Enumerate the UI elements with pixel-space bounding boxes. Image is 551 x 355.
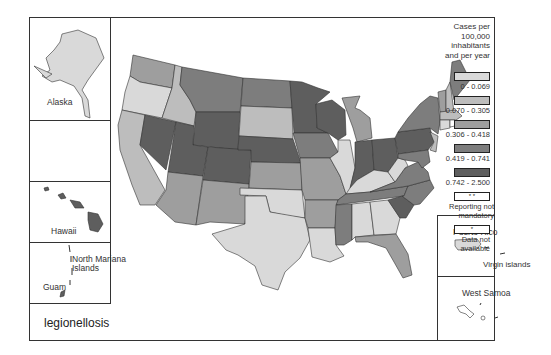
legend-item: 0.070 - 0.305 [432, 96, 490, 115]
legend-swatch [454, 120, 490, 129]
legend-item: 0.742 - 2.500 [432, 168, 490, 187]
legend-label: 0.070 - 0.305 [432, 106, 490, 115]
legend-swatch [454, 96, 490, 105]
state-arkansas [305, 200, 338, 228]
hawaii-label: Hawaii [51, 226, 77, 236]
state-arizona [156, 172, 203, 225]
state-new-mexico [196, 180, 249, 225]
island-west-samoa [457, 305, 474, 318]
legend-swatch [454, 168, 490, 177]
legend-swatch: * * [454, 192, 490, 201]
legend-swatch [454, 72, 490, 81]
state-wyoming [193, 112, 240, 150]
state-south-dakota [239, 106, 293, 139]
west-samoa-label: West Samoa [462, 288, 511, 298]
alaska-label: Alaska [47, 97, 73, 107]
north-mariana-label-2: Islands [72, 263, 99, 273]
legend-item: 0.419 - 0.741 [432, 144, 490, 163]
legend-swatch [454, 144, 490, 153]
state-florida [355, 234, 412, 278]
guam-label: Guam [43, 282, 66, 292]
legend-heading-2: 100,000 inhabitants [432, 32, 490, 51]
legend-label: 0 - 0.069 [432, 82, 490, 91]
state-colorado [203, 147, 251, 184]
state-kansas [249, 162, 302, 190]
legend-label: 0.742 - 2.500 [432, 178, 490, 187]
map-title: legionellosis [44, 316, 109, 330]
state-north-dakota [241, 78, 292, 108]
legend: Cases per 100,000 inhabitants and per ye… [432, 22, 490, 253]
legend-item: 0.306 - 0.418 [432, 120, 490, 139]
legend-label: 0.306 - 0.418 [432, 130, 490, 139]
legend-heading-1: Cases per [432, 22, 490, 32]
legend-item: * Data not available [432, 225, 490, 253]
legend-heading-3: and per year [432, 51, 490, 61]
legend-swatch: * [454, 225, 490, 234]
legend-label: 0.419 - 0.741 [432, 154, 490, 163]
legend-label: Data not available [432, 235, 490, 253]
state-michigan [342, 96, 372, 142]
legend-item: * * Reporting not mandatory [432, 192, 490, 220]
state-iowa [293, 133, 338, 158]
virgin-islands-label: Virgin islands [483, 260, 530, 269]
state-mississippi [335, 204, 352, 245]
legend-item: 0 - 0.069 [432, 72, 490, 91]
legend-label: Reporting not mandatory [432, 202, 494, 220]
